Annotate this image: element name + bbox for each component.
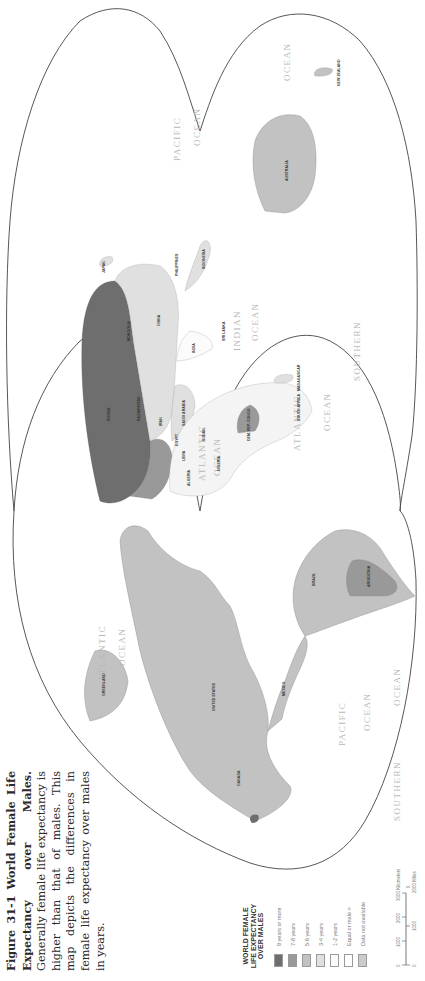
country-label: SOUTH AFRICA — [297, 394, 301, 421]
legend-label: 9 years or more — [276, 907, 282, 946]
country-label: ARGENTINA — [367, 565, 371, 587]
country-label: GREENLAND — [102, 673, 106, 696]
ocean-label: OCEAN — [250, 303, 260, 342]
legend-item: 9 years or more — [273, 861, 285, 971]
country-label: MONGOLIA — [127, 321, 131, 341]
scale-bar: 0 1000 2000 3000 Kilometers 0 1000 2000 … — [392, 879, 420, 969]
ocean-label: SOUTHERN — [352, 321, 362, 381]
ocean-label: OCEAN — [117, 628, 127, 667]
country-label: SRI LANKA — [222, 321, 226, 341]
ocean-label: SOUTHERN — [392, 761, 402, 821]
country-label: LIBYA — [182, 450, 186, 461]
country-label: CANADA — [237, 770, 241, 786]
legend-swatch — [330, 954, 339, 967]
world-map: ATLANTIC OCEAN PACIFIC OCEAN SOUTHERN OC… — [0, 0, 425, 981]
scale-km-label: 2000 — [396, 912, 401, 923]
ocean-label: PACIFIC — [337, 702, 347, 746]
legend-swatch — [288, 954, 297, 967]
legend-item: 5-6 years — [301, 861, 313, 971]
country-label: MEXICO — [282, 682, 286, 696]
scale-km-label: 0 — [396, 964, 401, 967]
country-label: INDIA — [192, 343, 196, 353]
country-label: NEW ZEALAND — [337, 59, 341, 86]
country-label: RUSSIA — [107, 407, 111, 421]
legend-label: 1-2 years — [332, 923, 338, 946]
country-label: EGYPT — [175, 433, 179, 446]
country-label: PHILIPPINES — [175, 253, 179, 276]
legend-title-line: WORLD FEMALE — [242, 901, 250, 971]
scale-mi-label: 2000 Miles — [412, 870, 417, 893]
legend-item: 3-4 years — [315, 861, 327, 971]
scale-mi-label: 1000 — [412, 920, 417, 931]
map-legend: WORLD FEMALE LIFE EXPECTANCY OVER MALES … — [242, 861, 369, 971]
ocean-label: OCEAN — [282, 43, 292, 82]
legend-label: Data not available — [360, 902, 366, 946]
figure-page: Figure 31-1 World Female Life Expectancy… — [0, 0, 425, 981]
ocean-label: OCEAN — [322, 393, 332, 432]
country-label: KAZAKHSTAN — [137, 396, 141, 421]
legend-item: Data not available — [357, 861, 369, 971]
ocean-label: OCEAN — [192, 108, 202, 147]
legend-label: 7-8 years — [290, 923, 296, 946]
legend-title: WORLD FEMALE LIFE EXPECTANCY OVER MALES — [242, 901, 265, 971]
legend-label: 5-6 years — [304, 923, 310, 946]
country-label: DEM. REP. CONGO — [247, 408, 251, 441]
scale-km-label: 1000 — [396, 936, 401, 947]
country-label: JAPAN — [102, 261, 106, 273]
legend-title-line: OVER MALES — [257, 901, 265, 971]
legend-label: Equal or male > — [346, 907, 352, 946]
legend-swatch — [344, 954, 353, 967]
scale-bar-graphic: 0 1000 2000 3000 Kilometers 0 1000 2000 … — [392, 869, 420, 969]
ocean-label: OCEAN — [362, 693, 372, 732]
country-label: INDONESIA — [202, 249, 206, 269]
ocean-label: OCEAN — [392, 668, 402, 707]
legend-label: 3-4 years — [318, 923, 324, 946]
scale-km-label: 3000 Kilometers — [396, 869, 401, 901]
country-label: MADAGASCAR — [297, 364, 301, 391]
legend-swatch — [358, 954, 367, 967]
legend-item: 7-8 years — [287, 861, 299, 971]
country-label: SAUDI ARABIA — [182, 400, 186, 426]
country-label: UNITED STATES — [212, 682, 216, 711]
scale-mi-label: 0 — [412, 964, 417, 967]
country-label: SUDAN — [202, 428, 206, 441]
country-label: AUSTRALIA — [285, 160, 289, 181]
ocean-label: PACIFIC — [172, 117, 182, 161]
country-label: ALGERIA — [187, 469, 191, 486]
legend-swatch — [302, 954, 311, 967]
ocean-label: INDIAN — [232, 310, 242, 351]
legend-swatch — [316, 954, 325, 967]
legend-swatch — [274, 954, 283, 967]
country-label: NIGERIA — [217, 456, 221, 471]
country-label: IRAN — [159, 417, 163, 426]
country-label: BRAZIL — [312, 572, 316, 586]
legend-title-line: LIFE EXPECTANCY — [250, 901, 258, 971]
legend-item: Equal or male > — [343, 861, 355, 971]
country-label: CHINA — [157, 314, 161, 326]
legend-item: 1-2 years — [329, 861, 341, 971]
